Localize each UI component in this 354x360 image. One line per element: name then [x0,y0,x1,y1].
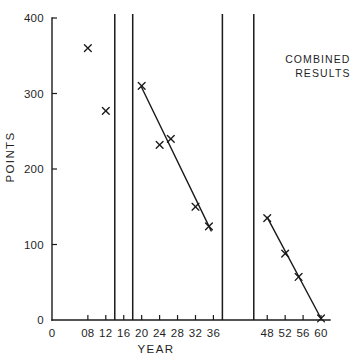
x-tick-label: 52 [278,327,291,339]
data-point-marker [102,107,109,114]
x-tick-label: 16 [117,327,130,339]
data-point-marker [84,45,91,52]
y-tick-label: 100 [24,239,44,251]
y-tick-label: 300 [24,88,44,100]
tick-labels-group: 01002003004000081216202428323648525660 [24,12,328,339]
chart-container: 01002003004000081216202428323648525660 Y… [0,0,354,360]
vertical-reference-lines-group [115,14,254,320]
data-point-marker [264,215,271,222]
x-tick-label: 56 [296,327,309,339]
interwar-trend [142,87,212,230]
data-point-marker [206,223,213,230]
x-axis-title: YEAR [138,343,175,355]
y-axis-title: POINTS [4,131,16,182]
x-tick-label: 28 [171,327,184,339]
x-tick-label: 36 [207,327,220,339]
x-tick-label: 12 [99,327,112,339]
data-point-marker [192,203,199,210]
y-tick-label: 200 [24,163,44,175]
combined-results-label-line2: RESULTS [295,67,350,79]
x-tick-label: 60 [314,327,327,339]
x-tick-label: 0 [49,327,56,339]
combined-results-label-line1: COMBINED [285,53,350,65]
scatter-plot: 01002003004000081216202428323648525660 Y… [0,0,354,360]
postwar-trend [267,217,321,318]
trend-lines-group [142,87,321,318]
data-markers-group [84,45,324,322]
data-point-marker [156,141,163,148]
data-point-marker [167,135,174,142]
annotations-group: COMBINEDRESULTS [285,53,350,79]
data-point-marker [295,274,302,281]
y-tick-label: 0 [37,314,44,326]
x-tick-label: 24 [153,327,167,339]
x-tick-label: 32 [189,327,202,339]
x-tick-label: 48 [261,327,274,339]
x-tick-label: 20 [135,327,148,339]
y-tick-label: 400 [24,12,44,24]
x-tick-label: 08 [81,327,94,339]
